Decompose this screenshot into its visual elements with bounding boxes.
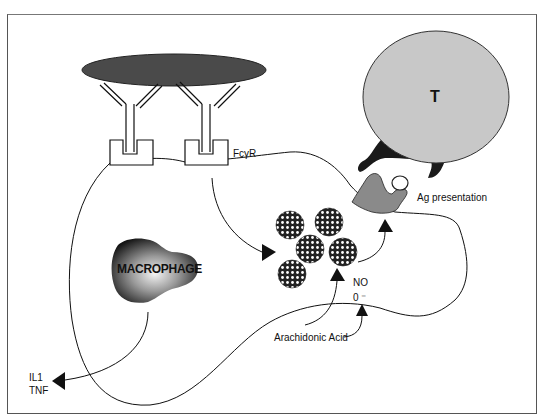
il1-label: IL1 [29, 373, 43, 383]
superoxide-label: 0 ⁻ [353, 293, 366, 303]
arachidonic-acid-label: Arachidonic Acid [274, 333, 348, 343]
arrowhead-icon [356, 304, 368, 316]
fc-receptor-left [110, 140, 153, 165]
diagram-canvas [0, 0, 542, 419]
macrophage-label: MACROPHAGE [117, 263, 202, 275]
arrowhead-icon [262, 244, 276, 261]
arrowhead-icon [52, 372, 65, 390]
fc-receptor-label: FcγR [233, 149, 256, 159]
tnf-label: TNF [29, 386, 48, 396]
arrowhead-icon [378, 219, 393, 232]
fc-receptor-right [185, 140, 228, 165]
no-label: NO [353, 278, 368, 288]
antigen-peptide [392, 176, 408, 190]
phagocytosis-arrow [212, 178, 262, 252]
granule-cluster [276, 208, 357, 288]
t-cell-label: T [430, 89, 440, 105]
granule-to-ag-arrow [358, 232, 385, 262]
antigen-particle [82, 54, 266, 86]
arrowhead-icon [330, 268, 345, 281]
ag-presentation-label: Ag presentation [417, 193, 487, 203]
arachidonic-arrow [305, 281, 337, 325]
